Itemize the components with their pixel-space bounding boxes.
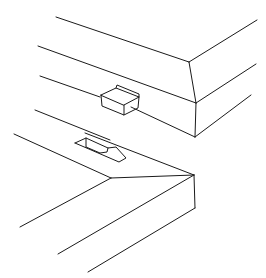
upper-housing [35,17,257,140]
drawing-canvas [0,0,266,278]
lower-housing [14,133,195,272]
recessed-slot [75,138,126,162]
protruding-tab [101,85,139,115]
